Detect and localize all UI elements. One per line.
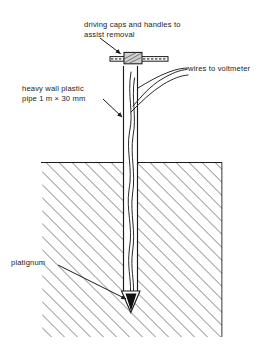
label-pipe: heavy wall plastic pipe 1 m × 30 mm <box>22 84 85 104</box>
label-platignum: platignum <box>11 258 45 268</box>
label-wires-to-voltmeter: wires to voltmeter <box>188 64 250 74</box>
soil-probe-figure <box>0 0 277 352</box>
label-driving-caps: driving caps and handles to assist remov… <box>84 20 181 40</box>
driving-cap-block <box>124 52 142 63</box>
diagram-canvas: driving caps and handles to assist remov… <box>0 0 277 352</box>
